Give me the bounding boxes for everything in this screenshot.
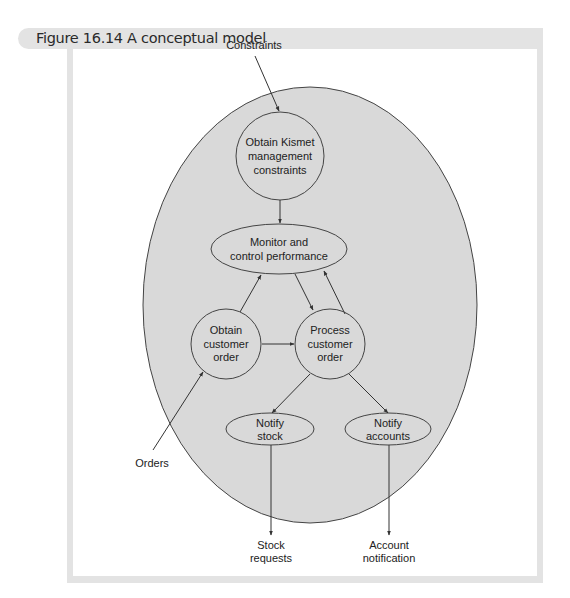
label-account-notification-line2: notification bbox=[363, 552, 416, 564]
node-label-line: accounts bbox=[366, 430, 411, 442]
node-label-line: Monitor and bbox=[250, 236, 308, 248]
node-monitor-control-performance: Monitor and control performance bbox=[211, 224, 347, 274]
label-account-notification-line1: Account bbox=[369, 539, 409, 551]
node-obtain-customer-order: Obtain customer order bbox=[191, 309, 261, 379]
node-label-line: Obtain bbox=[210, 324, 242, 336]
node-label-line: Notify bbox=[374, 417, 403, 429]
label-stock-requests-line2: requests bbox=[250, 552, 293, 564]
label-orders: Orders bbox=[135, 457, 169, 469]
node-obtain-kismet-constraints: Obtain Kismet management constraints bbox=[236, 112, 324, 200]
node-label-line: control performance bbox=[230, 250, 328, 262]
node-label-line: Obtain Kismet bbox=[245, 136, 314, 148]
node-label-line: Notify bbox=[256, 417, 285, 429]
node-label-line: management bbox=[248, 150, 312, 162]
node-label-line: customer bbox=[203, 338, 249, 350]
node-label-line: Process bbox=[310, 324, 350, 336]
conceptual-model-diagram: Obtain Kismet management constraints Mon… bbox=[0, 0, 570, 598]
node-label-line: stock bbox=[257, 430, 283, 442]
node-notify-stock: Notify stock bbox=[226, 413, 314, 445]
node-label-line: order bbox=[213, 351, 239, 363]
node-notify-accounts: Notify accounts bbox=[345, 413, 431, 445]
node-label-line: customer bbox=[307, 338, 353, 350]
node-label-line: order bbox=[317, 351, 343, 363]
label-constraints: Constraints bbox=[226, 39, 282, 51]
node-process-customer-order: Process customer order bbox=[295, 309, 365, 379]
node-label-line: constraints bbox=[253, 164, 307, 176]
label-stock-requests-line1: Stock bbox=[257, 539, 285, 551]
